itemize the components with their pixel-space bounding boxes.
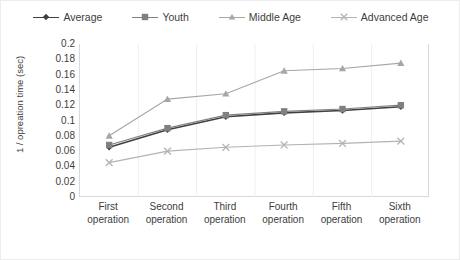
x-tick-line: operation xyxy=(312,214,370,227)
legend-item-youth[interactable]: Youth xyxy=(132,11,188,23)
legend-label: Youth xyxy=(162,11,188,23)
legend-label: Middle Age xyxy=(249,11,301,23)
diamond-marker-icon xyxy=(33,12,59,22)
x-tick-label: Fourthoperation xyxy=(254,201,312,241)
x-tick-line: Fourth xyxy=(254,201,312,214)
legend-item-advanced-age[interactable]: Advanced Age xyxy=(331,11,429,23)
x-tick-line: operation xyxy=(254,214,312,227)
x-tick-line: First xyxy=(79,201,137,214)
x-tick-label: Sixthoperation xyxy=(371,201,429,241)
x-tick-line: Sixth xyxy=(371,201,429,214)
y-tick-label: 0.14 xyxy=(37,85,75,95)
x-tick-label: Thirdoperation xyxy=(196,201,254,241)
legend-item-middle-age[interactable]: Middle Age xyxy=(219,11,301,23)
y-tick-label: 0.1 xyxy=(37,116,75,126)
x-tick-line: operation xyxy=(196,214,254,227)
legend-label: Advanced Age xyxy=(361,11,429,23)
y-tick-label: 0 xyxy=(37,192,75,202)
y-tick-label: 0.08 xyxy=(37,131,75,141)
y-tick-label: 0.04 xyxy=(37,161,75,171)
y-axis-tick-labels: 00.020.040.060.080.10.120.140.160.180.2 xyxy=(37,39,75,199)
y-tick-label: 0.16 xyxy=(37,70,75,80)
y-tick-label: 0.02 xyxy=(37,177,75,187)
legend-label: Average xyxy=(63,11,102,23)
y-tick-label: 0.18 xyxy=(37,54,75,64)
triangle-marker-icon xyxy=(219,12,245,22)
y-tick-label: 0.2 xyxy=(37,39,75,49)
x-tick-label: Fifthoperation xyxy=(312,201,370,241)
x-tick-line: Second xyxy=(137,201,195,214)
x-tick-line: Third xyxy=(196,201,254,214)
x-tick-label: Firstoperation xyxy=(79,201,137,241)
x-tick-line: operation xyxy=(137,214,195,227)
x-tick-label: Secondoperation xyxy=(137,201,195,241)
legend-item-average[interactable]: Average xyxy=(33,11,102,23)
chart-legend: AverageYouthMiddle AgeAdvanced Age xyxy=(1,11,460,23)
x-tick-line: Fifth xyxy=(312,201,370,214)
square-marker-icon xyxy=(132,12,158,22)
plot-area xyxy=(79,44,429,197)
y-tick-label: 0.12 xyxy=(37,100,75,110)
y-axis-title: 1 / opreation time (sec) xyxy=(14,45,25,165)
cross-marker-icon xyxy=(331,12,357,22)
x-tick-line: operation xyxy=(371,214,429,227)
chart-figure: AverageYouthMiddle AgeAdvanced Age 1 / o… xyxy=(0,0,460,260)
y-tick-label: 0.06 xyxy=(37,146,75,156)
plot-svg xyxy=(80,44,430,197)
x-tick-line: operation xyxy=(79,214,137,227)
x-axis-tick-labels: FirstoperationSecondoperationThirdoperat… xyxy=(79,201,429,241)
